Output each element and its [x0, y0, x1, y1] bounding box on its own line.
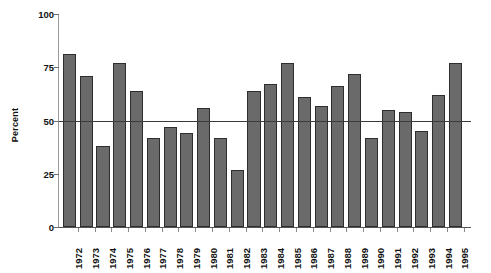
y-axis-tick-label: 25 — [28, 168, 54, 179]
y-axis-tick-label: 50 — [28, 115, 54, 126]
y-axis-tick-label: 0 — [28, 222, 54, 233]
x-axis-tick-label: 1976 — [141, 248, 152, 269]
x-axis-tick-mark — [397, 228, 398, 232]
bar — [365, 138, 378, 227]
x-axis-tick-label: 1983 — [258, 248, 269, 269]
y-axis-tick-labels: 0255075100 — [28, 0, 54, 273]
x-axis-tick-mark — [464, 228, 465, 232]
bar — [147, 138, 160, 227]
x-axis-tick-label: 1978 — [174, 248, 185, 269]
x-axis-tick-mark — [128, 228, 129, 232]
x-axis-tick-mark — [212, 228, 213, 232]
x-axis-tick-label: 1989 — [359, 248, 370, 269]
bar — [348, 74, 361, 227]
x-axis-tick-label: 1975 — [124, 248, 135, 269]
x-axis-tick-label: 1987 — [325, 248, 336, 269]
x-axis-tick-mark — [413, 228, 414, 232]
bar — [331, 86, 344, 227]
x-axis-tick-mark — [313, 228, 314, 232]
x-axis-tick-labels: 1972197319741975197619771978197919801981… — [59, 233, 471, 273]
bar — [281, 63, 294, 227]
x-axis-tick-label: 1993 — [426, 248, 437, 269]
x-axis-tick-mark — [229, 228, 230, 232]
y-axis-title: Percent — [10, 90, 20, 160]
x-axis-tick-mark — [195, 228, 196, 232]
x-axis-tick-label: 1984 — [275, 248, 286, 269]
x-axis-tick-label: 1981 — [224, 248, 235, 269]
x-axis-tick-mark — [330, 228, 331, 232]
x-axis-tick-label: 1991 — [392, 248, 403, 269]
x-axis-tick-label: 1995 — [459, 248, 470, 269]
bar — [113, 63, 126, 227]
x-axis-tick-mark — [262, 228, 263, 232]
bar — [415, 131, 428, 227]
bar — [432, 95, 445, 227]
bar — [180, 133, 193, 227]
y-axis-tick-mark — [54, 14, 59, 15]
x-axis-tick-label: 1979 — [191, 248, 202, 269]
x-axis-tick-label: 1986 — [308, 248, 319, 269]
x-axis-tick-mark — [246, 228, 247, 232]
x-axis-tick-mark — [363, 228, 364, 232]
x-axis-tick-mark — [145, 228, 146, 232]
x-axis-tick-label: 1973 — [90, 248, 101, 269]
x-axis-tick-mark — [380, 228, 381, 232]
x-axis-tick-mark — [296, 228, 297, 232]
bar — [449, 63, 462, 227]
x-axis-tick-label: 1994 — [443, 248, 454, 269]
x-axis-tick-label: 1988 — [342, 248, 353, 269]
bar — [298, 97, 311, 227]
y-axis-tick-mark — [54, 174, 59, 175]
x-axis-tick-mark — [95, 228, 96, 232]
x-axis-tick-label: 1982 — [241, 248, 252, 269]
y-axis-tick-label: 75 — [28, 62, 54, 73]
bar — [399, 112, 412, 227]
x-axis-tick-mark — [430, 228, 431, 232]
x-axis-tick-mark — [111, 228, 112, 232]
y-axis-tick-mark — [54, 121, 59, 122]
bar — [315, 106, 328, 227]
bar — [80, 76, 93, 227]
bar — [96, 146, 109, 227]
bar — [264, 84, 277, 227]
bar — [197, 108, 210, 227]
bar — [247, 91, 260, 227]
x-axis-tick-label: 1977 — [157, 248, 168, 269]
bar — [164, 127, 177, 227]
bar — [63, 54, 76, 227]
reference-line-50 — [58, 121, 471, 122]
x-axis-tick-mark — [447, 228, 448, 232]
x-axis-tick-label: 1974 — [107, 248, 118, 269]
x-axis-tick-label: 1972 — [73, 248, 84, 269]
x-axis-tick-label: 1980 — [208, 248, 219, 269]
bar — [231, 170, 244, 228]
bar-chart: Percent 0255075100 197219731974197519761… — [0, 0, 491, 273]
bar — [130, 91, 143, 227]
x-axis-tick-mark — [346, 228, 347, 232]
bar — [214, 138, 227, 227]
x-axis-tick-mark — [162, 228, 163, 232]
y-axis-tick-label: 100 — [28, 9, 54, 20]
x-axis-tick-label: 1985 — [292, 248, 303, 269]
y-axis-tick-mark — [54, 67, 59, 68]
x-axis-tick-label: 1990 — [375, 248, 386, 269]
bar — [382, 110, 395, 227]
x-axis-tick-mark — [178, 228, 179, 232]
x-axis-tick-mark — [78, 228, 79, 232]
x-axis-tick-label: 1992 — [409, 248, 420, 269]
x-axis-tick-mark — [279, 228, 280, 232]
y-axis-tick-mark — [54, 227, 59, 228]
